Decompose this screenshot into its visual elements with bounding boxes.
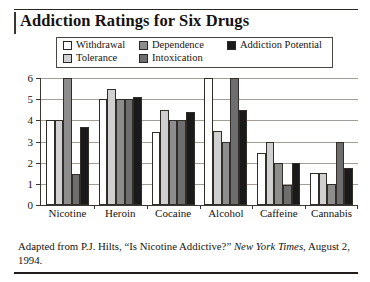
bar-cocaine-dependence[interactable] xyxy=(169,120,178,205)
bar-cannabis-addiction-potential[interactable] xyxy=(344,168,353,205)
y-tick-5 xyxy=(36,99,41,100)
bar-caffeine-tolerance[interactable] xyxy=(266,142,275,206)
legend-item-dependence: Dependence xyxy=(139,40,204,51)
y-tick-6 xyxy=(36,78,41,79)
x-axis-label-nicotine: Nicotine xyxy=(48,207,86,219)
y-axis-label-2: 2 xyxy=(28,157,34,169)
y-axis-label-0: 0 xyxy=(28,199,34,211)
bar-cocaine-addiction-potential[interactable] xyxy=(186,112,195,205)
x-tick-caffeine xyxy=(252,205,253,209)
x-tick-alcohol xyxy=(200,205,201,209)
caption-text-1: Adapted from P.J. Hilts, “Is Nicotine Ad… xyxy=(18,240,234,252)
figure-caption: Adapted from P.J. Hilts, “Is Nicotine Ad… xyxy=(18,240,354,267)
bar-nicotine-tolerance[interactable] xyxy=(55,120,64,205)
bar-cocaine-tolerance[interactable] xyxy=(160,110,169,205)
x-tick-cannabis xyxy=(305,205,306,209)
chart-legend: Withdrawal Dependence Addiction Potentia… xyxy=(56,37,333,68)
bar-heroin-dependence[interactable] xyxy=(116,99,125,205)
legend-swatch-intoxication xyxy=(139,54,148,63)
legend-swatch-addiction-potential xyxy=(227,41,236,50)
bar-alcohol-addiction-potential[interactable] xyxy=(239,110,248,205)
y-tick-2 xyxy=(36,163,41,164)
x-tick-heroin xyxy=(94,205,95,209)
x-axis-label-alcohol: Alcohol xyxy=(208,207,243,219)
figure-addiction-ratings: Addiction Ratings for Six Drugs Withdraw… xyxy=(0,0,370,282)
legend-item-intoxication: Intoxication xyxy=(139,53,203,64)
legend-label-tolerance: Tolerance xyxy=(76,53,117,64)
bar-nicotine-intoxication[interactable] xyxy=(72,174,81,205)
bar-caffeine-dependence[interactable] xyxy=(274,163,283,205)
bar-alcohol-intoxication[interactable] xyxy=(230,78,239,205)
y-tick-1 xyxy=(36,184,41,185)
y-tick-3 xyxy=(36,142,41,143)
bar-cannabis-withdrawal[interactable] xyxy=(310,173,319,205)
x-axis-label-heroin: Heroin xyxy=(105,207,136,219)
bar-cocaine-withdrawal[interactable] xyxy=(152,132,161,205)
bar-group-cannabis: Cannabis xyxy=(310,78,353,205)
bar-cocaine-intoxication[interactable] xyxy=(177,120,186,205)
bar-alcohol-withdrawal[interactable] xyxy=(204,78,213,205)
bar-group-nicotine: Nicotine xyxy=(46,78,89,205)
bar-alcohol-tolerance[interactable] xyxy=(213,131,222,205)
page-title: Addiction Ratings for Six Drugs xyxy=(20,11,249,31)
bar-nicotine-dependence[interactable] xyxy=(63,78,72,205)
plot-area: 0123456NicotineHeroinCocaineAlcoholCaffe… xyxy=(18,78,358,220)
legend-item-withdrawal: Withdrawal xyxy=(63,40,125,51)
y-axis-label-5: 5 xyxy=(28,93,34,105)
y-tick-4 xyxy=(36,120,41,121)
y-axis-label-6: 6 xyxy=(28,72,34,84)
bar-caffeine-addiction-potential[interactable] xyxy=(292,163,301,205)
legend-label-withdrawal: Withdrawal xyxy=(76,40,125,51)
bar-alcohol-dependence[interactable] xyxy=(222,142,231,206)
bar-cannabis-dependence[interactable] xyxy=(327,184,336,205)
legend-item-addiction-potential: Addiction Potential xyxy=(227,40,322,51)
legend-swatch-tolerance xyxy=(63,54,72,63)
legend-label-addiction-potential: Addiction Potential xyxy=(240,40,322,51)
bar-heroin-intoxication[interactable] xyxy=(125,99,134,205)
legend-row-2: Tolerance Intoxication xyxy=(57,53,332,67)
x-axis-end-tick xyxy=(357,205,358,209)
legend-item-tolerance: Tolerance xyxy=(63,53,117,64)
y-tick-0 xyxy=(36,205,41,206)
bar-heroin-addiction-potential[interactable] xyxy=(133,97,142,205)
bar-nicotine-addiction-potential[interactable] xyxy=(80,127,89,205)
bar-cannabis-intoxication[interactable] xyxy=(336,142,345,206)
legend-label-dependence: Dependence xyxy=(152,40,204,51)
top-rule xyxy=(14,9,358,10)
legend-label-intoxication: Intoxication xyxy=(152,53,203,64)
bar-heroin-tolerance[interactable] xyxy=(107,89,116,205)
bottom-rule xyxy=(14,272,358,274)
x-axis-label-cannabis: Cannabis xyxy=(311,207,352,219)
bar-heroin-withdrawal[interactable] xyxy=(99,99,108,205)
bar-group-alcohol: Alcohol xyxy=(204,78,247,205)
y-axis-label-4: 4 xyxy=(28,114,34,126)
legend-swatch-dependence xyxy=(139,41,148,50)
x-axis-label-cocaine: Cocaine xyxy=(155,207,191,219)
y-axis-label-3: 3 xyxy=(28,136,34,148)
bar-cannabis-tolerance[interactable] xyxy=(319,173,328,205)
x-axis-label-caffeine: Caffeine xyxy=(260,207,298,219)
bar-group-heroin: Heroin xyxy=(99,78,142,205)
bar-caffeine-intoxication[interactable] xyxy=(283,185,292,205)
legend-swatch-withdrawal xyxy=(63,41,72,50)
bar-caffeine-withdrawal[interactable] xyxy=(257,153,266,205)
plot-canvas: 0123456NicotineHeroinCocaineAlcoholCaffe… xyxy=(40,78,358,206)
bar-nicotine-withdrawal[interactable] xyxy=(46,120,55,205)
x-tick-cocaine xyxy=(147,205,148,209)
bar-group-caffeine: Caffeine xyxy=(257,78,300,205)
caption-source: New York Times xyxy=(234,240,303,252)
bar-group-cocaine: Cocaine xyxy=(152,78,195,205)
y-axis-label-1: 1 xyxy=(28,178,34,190)
